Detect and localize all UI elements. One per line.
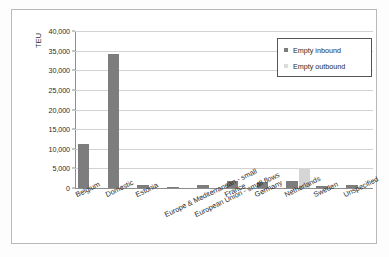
legend-label: Empty outbound: [293, 62, 345, 71]
bar-group: [164, 31, 194, 188]
y-tick-label: 5,000: [53, 164, 71, 173]
y-tick-label: 15,000: [49, 125, 70, 134]
bar-group: [105, 31, 135, 188]
chart-legend: Empty inbound Empty outbound: [277, 38, 372, 77]
y-tick-label: 30,000: [49, 66, 70, 75]
y-tick-label: 25,000: [49, 85, 70, 94]
legend-swatch-icon: [284, 48, 288, 52]
x-axis-labels: BelgiumDomesticEstoniaEurope & Mediterra…: [75, 188, 373, 254]
y-tick-label: 10,000: [49, 144, 70, 153]
legend-swatch-icon: [284, 64, 288, 68]
chart-frame: TEU 05,00010,00015,00020,00025,00030,000…: [11, 9, 377, 244]
y-tick-label: 35,000: [49, 46, 70, 55]
bar-group: [224, 31, 254, 188]
legend-label: Empty inbound: [293, 46, 341, 55]
bar-group: [135, 31, 165, 188]
legend-item-empty-outbound: Empty outbound: [284, 61, 345, 71]
y-tick-label: 0: [66, 184, 70, 193]
bar-group: [194, 31, 224, 188]
bar-group: [75, 31, 105, 188]
bar: [108, 54, 120, 188]
y-axis-title: TEU: [34, 33, 43, 48]
legend-item-empty-inbound: Empty inbound: [284, 45, 341, 55]
bar: [78, 144, 90, 188]
y-tick-label: 40,000: [49, 27, 70, 36]
figure: TEU 05,00010,00015,00020,00025,00030,000…: [0, 0, 389, 257]
y-tick-label: 20,000: [49, 105, 70, 114]
